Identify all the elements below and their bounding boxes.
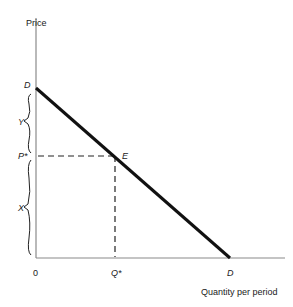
- y-axis-label: Price: [26, 18, 47, 28]
- e-label: E: [122, 151, 128, 161]
- y-brace: [24, 94, 31, 153]
- origin-label: 0: [33, 268, 38, 278]
- x-axis-label: Quantity per period: [201, 287, 278, 297]
- x-brace: [24, 160, 31, 255]
- q-star-label: Q*: [111, 268, 122, 278]
- d-intercept-label: D: [24, 80, 31, 90]
- x-brace-label: X: [18, 203, 24, 213]
- d-quantity-intercept-label: D: [227, 268, 234, 278]
- p-star-label: P*: [18, 151, 28, 161]
- demand-curve: [36, 88, 230, 258]
- y-brace-label: Y: [18, 117, 24, 127]
- demand-diagram: [0, 0, 293, 307]
